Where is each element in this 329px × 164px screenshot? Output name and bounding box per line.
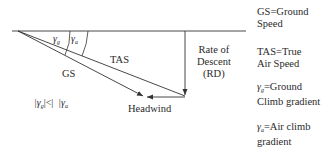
rate-of-descent-label: Rate of Descent (RD) xyxy=(197,44,231,80)
legend-gamma-g: γg=Ground Climb gradient xyxy=(257,81,329,108)
gamma-g-label: γg xyxy=(53,33,60,48)
tas-vector xyxy=(18,31,185,96)
headwind-label: Headwind xyxy=(128,103,171,115)
gamma-inequality: |γg|<| |γa xyxy=(34,97,68,112)
gamma-a-label: γa xyxy=(71,33,78,48)
gamma-a-arc xyxy=(82,31,88,56)
legend-gamma-a: γa=Air climb gradient xyxy=(257,121,329,148)
gs-label: GS xyxy=(62,68,75,80)
legend-tas: TAS=True Air Speed xyxy=(257,46,329,70)
tas-label: TAS xyxy=(110,54,129,66)
legend-gs: GS=Ground Speed xyxy=(257,6,329,30)
